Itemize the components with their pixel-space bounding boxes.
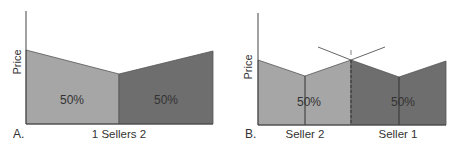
panel-b: Price 50% 50% B. Seller 2 Seller 1 — [242, 13, 446, 141]
panel-b-price-line-extension-right — [351, 47, 385, 60]
panel-b-price-line-extension-left — [318, 47, 351, 60]
panel-b-region-1-label: 50% — [297, 95, 321, 109]
seller-price-diagram: Price 50% 50% A. 1 Sellers 2 Price 50% 5… — [0, 0, 454, 149]
panel-b-x-label-left: Seller 2 — [286, 128, 325, 140]
panel-b-x-label-right: Seller 1 — [379, 128, 418, 140]
panel-a-y-label: Price — [11, 49, 23, 74]
panel-a-region-seller-2 — [119, 51, 213, 124]
panel-b-region-2-label: 50% — [391, 95, 415, 109]
panel-a-letter: A. — [13, 127, 24, 141]
panel-b-y-label: Price — [242, 54, 254, 79]
panel-a-region-seller-1 — [26, 50, 119, 124]
panel-a: Price 50% 50% A. 1 Sellers 2 — [11, 11, 213, 141]
panel-a-region-2-label: 50% — [154, 93, 178, 107]
panel-a-region-1-label: 50% — [60, 93, 84, 107]
panel-b-letter: B. — [245, 127, 256, 141]
panel-a-x-label: 1 Sellers 2 — [92, 128, 146, 140]
